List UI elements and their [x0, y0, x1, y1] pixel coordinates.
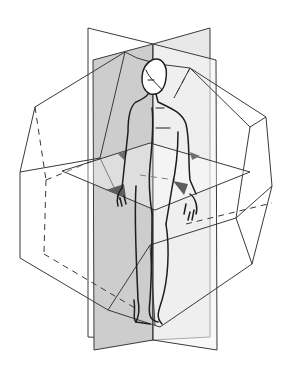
anatomical-planes-diagram: Anatomical planes of the human body — [0, 0, 290, 367]
diagram-canvas — [0, 0, 290, 367]
